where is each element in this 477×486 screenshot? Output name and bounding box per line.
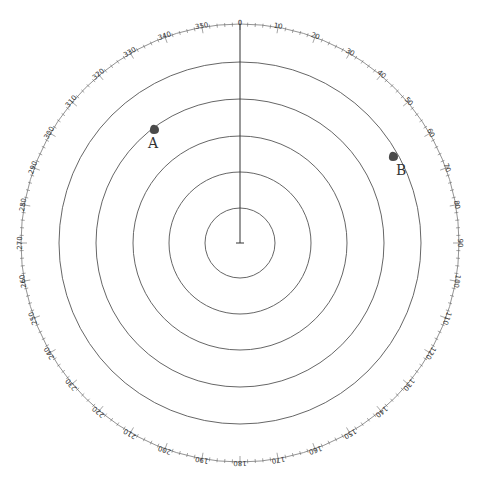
bearing-label: 90 [456,239,464,248]
bearing-label: 110 [441,311,453,326]
bearing-label: 20 [310,31,321,42]
bearing-label: 250 [27,311,39,326]
bearing-label: 180 [233,459,246,467]
bearing-label: 280 [18,198,28,213]
bearing-label: 330 [122,46,138,60]
bearing-label: 270 [16,236,24,249]
bearing-label: 40 [375,68,387,80]
bearing-label: 170 [271,455,286,465]
target-b: B [389,152,406,178]
radar-scope: 0102030405060708090100110120130140150160… [0,0,477,486]
target-label: B [396,162,406,178]
bearing-label: 100 [452,274,462,289]
bearing-label: 230 [64,377,79,392]
target-label: A [147,135,159,151]
target-a: A [147,125,159,151]
bearing-label: 320 [91,67,106,82]
bearing-label: 190 [195,455,210,465]
bearing-label: 140 [374,404,389,419]
bearing-label: 150 [342,427,358,441]
target-blip-icon [389,152,398,161]
bearing-label: 340 [157,30,172,42]
targets: AB [147,125,406,178]
bearing-label: 200 [157,444,172,456]
bearing-label: 240 [43,345,57,361]
bearing-label: 50 [403,96,415,108]
bearing-label: 70 [442,162,453,173]
bearing-label: 260 [18,274,28,289]
bearing-label: 10 [273,22,283,31]
bearing-label: 350 [195,21,210,31]
bearing-label: 80 [452,200,461,210]
target-blip-icon [150,125,159,134]
bearing-label: 290 [27,160,39,175]
bearing-label: 160 [308,444,323,456]
